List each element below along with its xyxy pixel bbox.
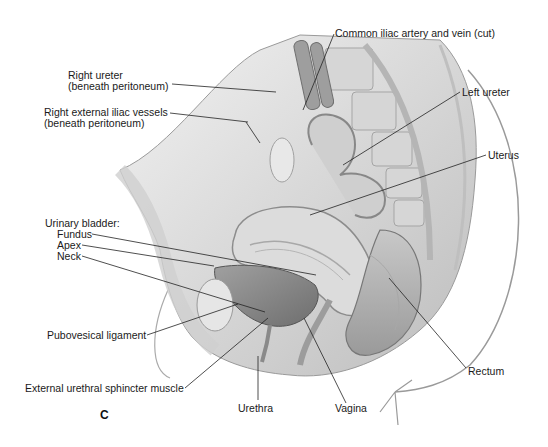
- label-right-ureter-line2: (beneath peritoneum): [68, 81, 168, 92]
- pubic-symphysis: [197, 279, 233, 331]
- label-bladder-neck: Neck: [57, 251, 81, 262]
- thigh-contour: [380, 380, 412, 425]
- ovary: [270, 138, 294, 182]
- label-right-external-iliac-line2: (beneath peritoneum): [44, 118, 168, 129]
- label-urethra: Urethra: [238, 403, 273, 414]
- panel-letter: C: [100, 408, 109, 422]
- anterior-contour: [155, 290, 170, 378]
- label-common-iliac-artery-vein: Common iliac artery and vein (cut): [335, 28, 495, 39]
- label-vagina: Vagina: [335, 403, 367, 414]
- label-right-external-iliac-vessels: Right external iliac vessels (beneath pe…: [44, 107, 168, 129]
- label-external-urethral-sphincter: External urethral sphincter muscle: [25, 383, 184, 394]
- label-left-ureter: Left ureter: [462, 87, 510, 98]
- label-uterus: Uterus: [488, 150, 519, 161]
- anatomy-figure: Right ureter (beneath peritoneum) Right …: [0, 0, 548, 447]
- label-rectum: Rectum: [468, 366, 504, 377]
- label-right-ureter: Right ureter (beneath peritoneum): [68, 70, 168, 92]
- label-pubovesical-ligament: Pubovesical ligament: [47, 330, 146, 341]
